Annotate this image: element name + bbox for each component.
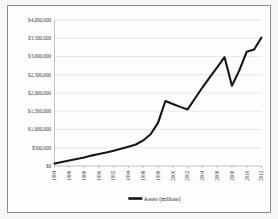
- y-axis-tick-label: $3,000,000: [28, 53, 51, 59]
- x-axis-tick-label: 1988: [81, 170, 87, 181]
- x-axis-tick-label: 2008: [229, 170, 235, 181]
- figure-frame: $0$500,000$1,000,000$1,500,000$2,000,000…: [7, 5, 271, 213]
- y-axis-tick-label: $0: [46, 163, 52, 169]
- x-axis-tick-marks: [55, 166, 262, 168]
- y-axis-tick-label: $500,000: [32, 145, 52, 151]
- y-axis-tick-label: $1,000,000: [28, 126, 51, 132]
- x-axis-tick-label: 1994: [125, 170, 131, 181]
- x-axis-tick-label: 1992: [110, 170, 116, 181]
- chart-plot-area: $0$500,000$1,000,000$1,500,000$2,000,000…: [8, 6, 270, 212]
- x-axis-tick-label: 1998: [155, 170, 161, 181]
- y-axis-tick-labels: $0$500,000$1,000,000$1,500,000$2,000,000…: [28, 17, 51, 169]
- assets-line-chart: $0$500,000$1,000,000$1,500,000$2,000,000…: [8, 6, 270, 212]
- x-axis-tick-label: 2000: [170, 170, 176, 181]
- x-axis-tick-label: 1996: [140, 170, 146, 181]
- x-axis-tick-label: 2004: [199, 170, 205, 181]
- y-axis-tick-label: $4,000,000: [28, 17, 51, 23]
- y-axis-tick-label: $1,500,000: [28, 108, 51, 114]
- x-axis-tick-labels: 1984198619881990199219941996199820002002…: [51, 170, 264, 181]
- x-axis-tick-label: 2012: [258, 170, 264, 181]
- x-axis-tick-label: 2006: [214, 170, 220, 181]
- y-axis-tick-label: $2,000,000: [28, 90, 51, 96]
- x-axis-tick-label: 2002: [184, 170, 190, 181]
- chart-legend: Assets (millions): [128, 196, 180, 203]
- x-axis-tick-label: 1984: [51, 170, 57, 181]
- x-axis-tick-label: 1986: [66, 170, 72, 181]
- figure-page: $0$500,000$1,000,000$1,500,000$2,000,000…: [0, 0, 278, 219]
- y-axis-tick-label: $3,500,000: [28, 35, 51, 41]
- x-axis-tick-label: 1990: [96, 170, 102, 181]
- x-axis-tick-label: 2010: [244, 170, 250, 181]
- y-axis-tick-label: $2,500,000: [28, 72, 51, 78]
- legend-label: Assets (millions): [144, 196, 181, 203]
